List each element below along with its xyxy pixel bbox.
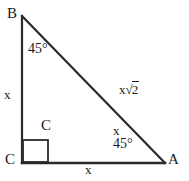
- vertex-label-a: A: [168, 152, 179, 167]
- vertex-label-c: C: [5, 152, 15, 167]
- radicand: 2: [132, 81, 140, 97]
- side-label-hypotenuse: x√2: [119, 83, 139, 96]
- triangle-figure: [0, 0, 189, 181]
- radical-sign-icon: √2: [126, 83, 140, 96]
- angle-label-b: 45°: [28, 42, 48, 56]
- right-angle-marker: [23, 140, 48, 162]
- side-label-vertical-leg: x: [4, 88, 11, 101]
- right-angle-marker-label: C: [41, 118, 51, 133]
- geometry-diagram: B C A C x x x√2 45° x 45°: [0, 0, 189, 181]
- vertex-label-b: B: [7, 6, 17, 21]
- hypotenuse-line: [22, 16, 165, 163]
- angle-label-a: 45°: [113, 137, 133, 151]
- side-label-horizontal-leg: x: [85, 163, 92, 176]
